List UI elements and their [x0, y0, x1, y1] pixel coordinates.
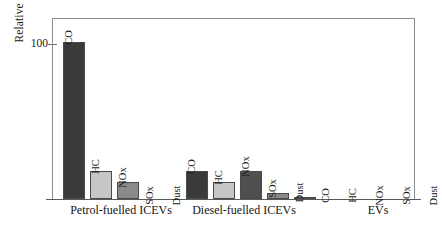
emissions-bar-chart-figure: Relative emissions (%) 100 COHCNOxSOxDus…	[0, 0, 442, 233]
bar	[63, 42, 85, 199]
bar-slot: HC	[347, 18, 369, 199]
bar-slot: NOx	[117, 18, 139, 199]
bar-slot: CO	[63, 18, 85, 199]
bar-slot: Dust	[428, 18, 442, 199]
bar-value-label: Dust	[295, 183, 306, 203]
x-axis-group-label: EVs	[288, 203, 442, 218]
bar-value-label: NOx	[118, 167, 129, 187]
bar	[90, 171, 112, 199]
y-axis-tick-label-100: 100	[22, 37, 48, 49]
y-axis-title: Relative emissions (%)	[13, 0, 29, 58]
bar-slot: CO	[186, 18, 208, 199]
bar-slot: SOx	[401, 18, 423, 199]
bar-value-label: NOx	[241, 156, 252, 176]
bar-slot: CO	[320, 18, 342, 199]
bar-slot: SOx	[267, 18, 289, 199]
bar-value-label: CO	[64, 30, 75, 45]
plot-area: COHCNOxSOxDustCOHCNOxSOxDustCOHCNOxSOxDu…	[52, 18, 415, 199]
bar-slot: HC	[213, 18, 235, 199]
bar-value-label: Dust	[429, 185, 440, 205]
bar	[186, 171, 208, 199]
bar-slot: Dust	[294, 18, 316, 199]
bar-value-label: CO	[321, 188, 332, 203]
bar-value-label: SOx	[145, 186, 156, 205]
bar-slot: HC	[90, 18, 112, 199]
bar-value-label: HC	[348, 188, 359, 203]
bar-group: COHCNOxSOxDust	[63, 18, 198, 199]
bar-value-label: SOx	[402, 186, 413, 205]
bar-value-label: HC	[91, 159, 102, 174]
bar-slot: SOx	[144, 18, 166, 199]
bar-slot: NOx	[374, 18, 396, 199]
bar-value-label: Dust	[172, 185, 183, 205]
bar-group: COHCNOxSOxDust	[186, 18, 321, 199]
bar-value-label: HC	[214, 170, 225, 185]
x-axis-baseline	[46, 199, 421, 200]
bar-value-label: SOx	[268, 179, 279, 198]
bar-slot: NOx	[240, 18, 262, 199]
bar-value-label: CO	[187, 159, 198, 174]
bar-group: COHCNOxSOxDust	[320, 18, 442, 199]
